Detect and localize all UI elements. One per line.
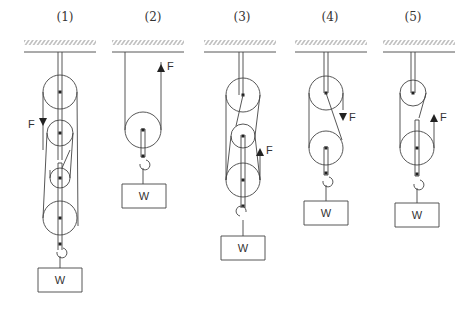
force-arrow-1 (39, 118, 47, 126)
force-arrow-4 (339, 113, 347, 121)
weight-label-4: W (321, 207, 332, 219)
weight-label-1: W (55, 274, 66, 286)
ceiling-1-hatch (24, 40, 96, 45)
force-label-2: F (167, 60, 174, 72)
panel-5 (383, 40, 455, 227)
hook-5 (414, 180, 424, 190)
force-arrow-2 (157, 64, 165, 72)
force-arrow-5 (430, 114, 438, 122)
force-label-5: F (440, 111, 447, 123)
force-label-3: F (266, 144, 273, 156)
hook-4 (323, 177, 333, 187)
weight-label-5: W (412, 209, 423, 221)
panel-4 (295, 40, 367, 225)
weight-label-2: W (139, 190, 150, 202)
hook-2 (140, 160, 150, 170)
panel-1 (24, 40, 96, 292)
force-label-4: F (349, 111, 356, 123)
force-label-1: F (28, 118, 35, 130)
weight-label-3: W (238, 242, 249, 254)
pulley-diagram-figure: (1) (2) (3) (4) (5) (0, 0, 470, 310)
